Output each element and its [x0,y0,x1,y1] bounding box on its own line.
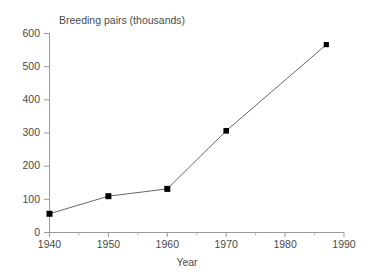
x-tick-label: 1970 [215,238,239,250]
data-point-marker [324,42,329,47]
y-tick-label: 600 [22,27,40,39]
data-point-marker [223,128,229,134]
data-point-marker [47,211,53,217]
chart-background [0,0,374,277]
chart-canvas: Breeding pairs (thousands) 0100200300400… [0,0,374,277]
y-tick-label: 0 [34,226,40,238]
x-tick-label: 1980 [273,238,297,250]
y-tick-label: 300 [22,126,40,138]
y-tick-label: 200 [22,159,40,171]
y-tick-label: 100 [22,193,40,205]
x-axis-title: Year [176,256,198,268]
data-point-marker [164,186,170,192]
chart-title: Breeding pairs (thousands) [59,14,185,26]
x-tick-label: 1990 [332,238,356,250]
x-tick-label: 1950 [97,238,121,250]
x-tick-label: 1960 [156,238,180,250]
line-chart: Breeding pairs (thousands) 0100200300400… [0,0,374,277]
y-tick-label: 500 [22,60,40,72]
y-tick-label: 400 [22,93,40,105]
x-tick-label: 1940 [38,238,62,250]
data-point-marker [105,193,111,199]
